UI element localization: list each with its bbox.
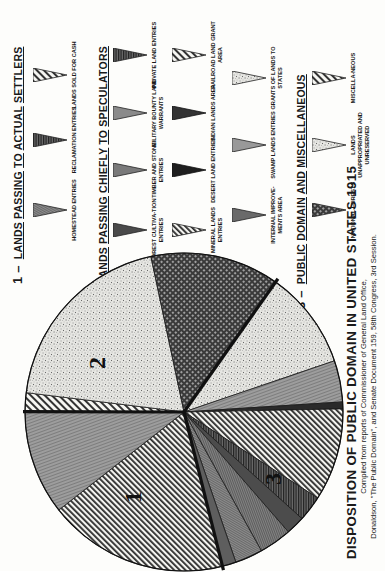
legend-item-unappropriated: LANDS UNAPPROPRIATED AND UNRESERVED — [312, 110, 371, 180]
pennant-marker-icon — [172, 223, 206, 237]
pie-chart: 1 2 3 — [23, 251, 345, 573]
heading-word: TO — [12, 153, 24, 168]
pennant-marker-icon — [172, 48, 206, 62]
pennant-marker-icon — [172, 163, 206, 177]
legend-item-label: GRANTS OF LANDS TO STATES — [270, 43, 284, 113]
pennant-marker-icon — [172, 106, 206, 120]
legend-item-internal-improvements: INTERNAL IMPROVE-MENTS AREA — [232, 180, 284, 250]
legend-item-grants-to-states: GRANTS OF LANDS TO STATES — [232, 43, 284, 113]
chart-title-block: DISPOSITION OF PUBLIC DOMAIN IN UNITED S… — [344, 214, 379, 559]
heading-word: CHIEFLY — [97, 148, 109, 193]
legend-item-reclamation: RECLAMATION ENTRIES — [33, 105, 78, 175]
heading-word: AND — [295, 171, 307, 194]
heading-word: PASSING — [12, 171, 24, 219]
heading-word: ACTUAL — [12, 106, 24, 150]
legend-item-label: INTERNAL IMPROVE-MENTS AREA — [270, 180, 284, 250]
pennant-marker-icon — [312, 203, 346, 217]
legend-item-railroad-grant: RAILROAD LAND GRANT AREA — [172, 20, 224, 90]
chart-source-line-2: Donaldson, "The Public Domain", and Sena… — [369, 214, 379, 559]
chart-source-line-1: Compiled from reports of Commissioner of… — [359, 214, 369, 559]
pennant-marker-icon — [232, 138, 266, 152]
heading-word: TO — [97, 130, 109, 145]
pennant-marker-icon — [113, 106, 147, 120]
pennant-marker-icon — [113, 48, 147, 62]
legend-item-label: SWAMP LANDS ENTRIES — [270, 110, 277, 180]
pennant-marker-icon — [312, 71, 346, 85]
legend-item-label: MISCELLA-NEOUS — [350, 43, 357, 113]
heading-word: SPECULATORS — [97, 46, 109, 127]
pennant-marker-icon — [33, 203, 67, 217]
legend-item-label: HOMESTEAD ENTRIES — [71, 175, 78, 245]
heading-word: PASSING — [97, 196, 109, 244]
pennant-marker-icon — [113, 223, 147, 237]
pie-label-group-1: 1 — [120, 491, 146, 503]
chart-title: DISPOSITION OF PUBLIC DOMAIN IN UNITED S… — [344, 214, 359, 559]
pennant-marker-icon — [113, 163, 147, 177]
heading-word: SETTLERS — [12, 47, 24, 103]
heading-word: DOMAIN — [295, 197, 307, 241]
legend-item-label: RECLAMATION ENTRIES — [71, 105, 78, 175]
legend-item-swamp-lands: SWAMP LANDS ENTRIES — [232, 110, 277, 180]
legend-item-miscellaneous: MISCELLA-NEOUS — [312, 43, 357, 113]
pennant-marker-icon — [232, 71, 266, 85]
pennant-marker-icon — [33, 133, 67, 147]
pennant-marker-icon — [33, 68, 67, 82]
pie-label-group-3: 3 — [260, 473, 286, 485]
pennant-marker-icon — [232, 208, 266, 222]
legend-item-sold-for-cash: LANDS SOLD FOR CASH — [33, 40, 78, 110]
pennant-marker-icon — [312, 138, 346, 152]
pie-chart-svg: 1 2 3 — [23, 251, 345, 573]
legend-item-label: RAILROAD LAND GRANT AREA — [210, 20, 224, 90]
legend-item-homestead: HOMESTEAD ENTRIES — [33, 175, 78, 245]
heading-word: MISCELLANEOUS — [295, 74, 307, 168]
legend-item-label: PRIVATE LAND ENTRIES — [151, 20, 158, 90]
legend-item-private-land: PRIVATE LAND ENTRIES — [113, 20, 158, 90]
pie-label-group-2: 2 — [84, 357, 110, 369]
legend-item-label: LANDS SOLD FOR CASH — [71, 40, 78, 110]
legend-group-1-heading: 1 – LANDS PASSING TO ACTUAL SETTLERS — [10, 47, 25, 284]
